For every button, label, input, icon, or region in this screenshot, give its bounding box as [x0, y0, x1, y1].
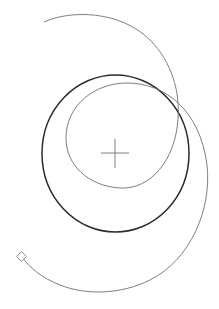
- drawing-canvas[interactable]: [0, 0, 219, 309]
- endpoint-grip-icon[interactable]: [17, 252, 27, 262]
- center-crosshair-icon: [101, 139, 129, 168]
